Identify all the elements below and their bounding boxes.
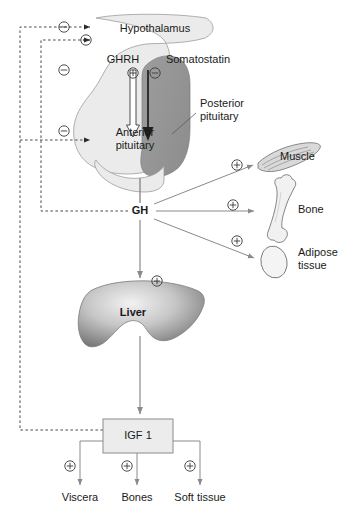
plus-sign-adipose — [232, 236, 242, 246]
adipose-label-line1: Adipose — [298, 246, 338, 258]
igf1-to-soft-tissue-arrow — [173, 441, 200, 485]
figure-canvas: Hypothalamus GHRH Somatostatin Anterior … — [0, 0, 348, 507]
feedback-igf1-to-hypothalamus — [20, 27, 103, 430]
muscle-label: Muscle — [280, 150, 315, 162]
adipose-tissue-illustration — [258, 244, 290, 281]
anterior-pituitary-label-line2: pituitary — [116, 139, 155, 151]
plus-sign-viscera — [65, 461, 75, 471]
viscera-label: Viscera — [62, 491, 98, 503]
liver-label: Liver — [120, 306, 146, 318]
igf1-to-viscera-arrow — [80, 441, 103, 485]
igf1-label: IGF 1 — [124, 429, 152, 441]
hypothalamus-pituitary-illustration — [74, 14, 213, 192]
minus-sign-gh-ghrh — [59, 65, 69, 75]
anterior-pituitary-label-line1: Anterior — [116, 126, 155, 138]
bones-label: Bones — [121, 491, 152, 503]
gh-axis-diagram — [0, 0, 348, 507]
gh-label: GH — [132, 204, 149, 216]
soft-tissue-label: Soft tissue — [174, 491, 225, 503]
gh-target-arrows — [154, 165, 254, 258]
plus-sign-bones — [122, 461, 132, 471]
plus-sign-muscle — [232, 160, 242, 170]
bone-label: Bone — [298, 203, 324, 215]
posterior-pituitary-label-line2: pituitary — [200, 110, 239, 122]
plus-sign-soft-tissue — [185, 461, 195, 471]
adipose-label-line2: tissue — [298, 259, 327, 271]
hypothalamus-label: Hypothalamus — [120, 22, 190, 34]
ghrh-label: GHRH — [107, 53, 139, 65]
somatostatin-label: Somatostatin — [166, 53, 230, 65]
plus-sign-bone — [228, 200, 238, 210]
gh-to-adipose-arrow — [154, 219, 254, 258]
bone-illustration — [267, 175, 295, 243]
posterior-pituitary-label-line1: Posterior — [200, 97, 244, 109]
minus-sign-anterior-pituitary — [59, 126, 69, 136]
